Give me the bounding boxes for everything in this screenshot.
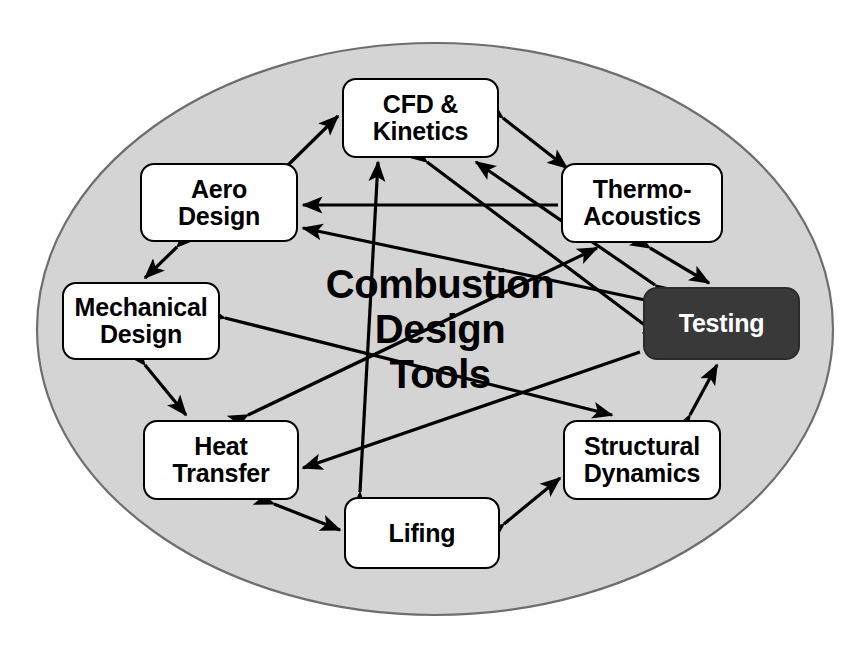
node-thermo-acoustics-label: Thermo- Acoustics (579, 176, 705, 230)
node-cfd-kinetics[interactable]: CFD & Kinetics (342, 78, 499, 158)
node-testing[interactable]: Testing (643, 287, 800, 360)
node-thermo-acoustics[interactable]: Thermo- Acoustics (561, 163, 723, 243)
node-aero-design[interactable]: Aero Design (140, 163, 298, 242)
node-lifing-label: Lifing (385, 520, 460, 547)
node-heat-transfer[interactable]: Heat Transfer (143, 420, 299, 500)
node-cfd-kinetics-label: CFD & Kinetics (369, 91, 473, 145)
node-structural-dynamics[interactable]: Structural Dynamics (563, 420, 721, 500)
combustion-design-tools-diagram: Combustion Design Tools CFD & Kinetics A… (0, 0, 868, 652)
node-aero-design-label: Aero Design (174, 176, 264, 230)
node-heat-transfer-label: Heat Transfer (168, 433, 273, 487)
node-lifing[interactable]: Lifing (344, 497, 500, 569)
node-structural-dynamics-label: Structural Dynamics (580, 433, 705, 487)
node-testing-label: Testing (675, 310, 769, 337)
node-mechanical-design[interactable]: Mechanical Design (62, 282, 220, 360)
node-mechanical-design-label: Mechanical Design (71, 294, 212, 348)
